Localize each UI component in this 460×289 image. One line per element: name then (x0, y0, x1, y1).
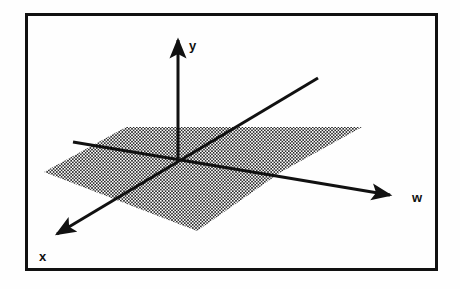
coordinate-diagram-svg: y w x (0, 0, 460, 289)
axis-y-label: y (189, 38, 197, 53)
axis-x-label: x (39, 249, 47, 264)
axis-w-label: w (411, 190, 423, 205)
figure-container: y w x (0, 0, 460, 289)
shaded-plane (44, 127, 362, 231)
